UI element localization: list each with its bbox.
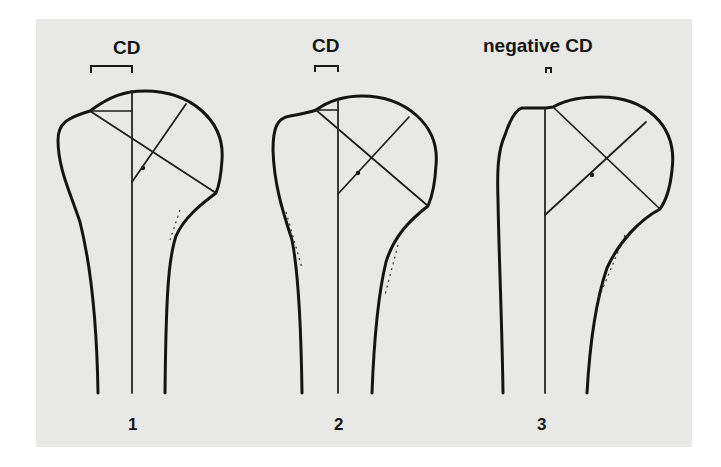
cd-bracket-3 bbox=[546, 68, 551, 73]
panel-number-1: 1 bbox=[128, 415, 137, 434]
cd-bracket-1 bbox=[91, 66, 132, 73]
panel-number-2: 2 bbox=[334, 415, 343, 434]
bone-outline-1 bbox=[58, 91, 222, 393]
head-center-dot-3 bbox=[590, 173, 594, 177]
negative-cd-label: negative CD bbox=[483, 35, 593, 56]
cd-label-2: CD bbox=[312, 35, 339, 56]
cd-bracket-2 bbox=[315, 66, 338, 72]
bone-outline-2 bbox=[273, 96, 436, 393]
panel-number-3: 3 bbox=[537, 415, 546, 434]
bone-outline-3 bbox=[498, 97, 673, 393]
humerus-diagram-2: CD 2 bbox=[273, 35, 436, 434]
cd-label-1: CD bbox=[113, 37, 140, 58]
humerus-cd-diagram: CD 1 CD 2 negative CD bbox=[0, 0, 721, 467]
head-center-dot-2 bbox=[356, 171, 360, 175]
humerus-diagram-3: negative CD 3 bbox=[483, 35, 673, 434]
head-axis-line-3 bbox=[545, 122, 646, 215]
humerus-diagram-1: CD 1 bbox=[58, 37, 222, 434]
head-axis-line-2 bbox=[338, 117, 409, 194]
head-center-dot-1 bbox=[141, 166, 145, 170]
cortex-speckle-2b bbox=[385, 245, 398, 295]
